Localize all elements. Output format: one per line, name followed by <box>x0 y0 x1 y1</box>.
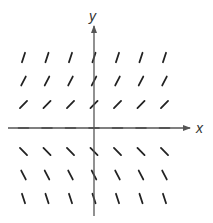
slope-segment <box>45 194 48 204</box>
slope-segment <box>163 53 166 63</box>
slope-segment <box>67 101 74 108</box>
x-axis-label: x <box>195 120 204 136</box>
slope-segment <box>21 77 26 86</box>
slope-segment <box>67 148 74 155</box>
slope-segment <box>45 77 50 86</box>
slope-segment <box>115 171 120 180</box>
slope-segment <box>163 194 166 204</box>
slope-segment <box>20 148 27 155</box>
slope-segment <box>20 101 27 108</box>
slope-segment <box>116 194 119 204</box>
slope-segment <box>162 77 167 86</box>
slope-segment <box>21 171 26 180</box>
slope-segment <box>114 101 121 108</box>
slope-segment <box>115 77 120 86</box>
slope-segment <box>161 101 168 108</box>
slope-segment <box>22 53 25 63</box>
slope-segment <box>139 53 142 63</box>
slope-segment <box>68 171 73 180</box>
slope-segment <box>43 148 50 155</box>
y-axis-label: y <box>88 8 97 24</box>
slope-segment <box>162 171 167 180</box>
slope-segment <box>116 53 119 63</box>
slope-segment <box>137 101 144 108</box>
slope-segment <box>45 53 48 63</box>
slope-segment <box>68 77 73 86</box>
slope-segment <box>139 77 144 86</box>
slope-segment <box>69 194 72 204</box>
slope-segment <box>45 171 50 180</box>
slope-field-diagram: x y <box>0 0 213 223</box>
slope-field-canvas: x y <box>0 0 213 223</box>
slope-segment <box>43 101 50 108</box>
slope-segment <box>22 194 25 204</box>
slope-segment <box>161 148 168 155</box>
slope-segment <box>69 53 72 63</box>
slope-segment <box>139 171 144 180</box>
slope-segment <box>137 148 144 155</box>
slope-segment <box>114 148 121 155</box>
slope-segment <box>139 194 142 204</box>
